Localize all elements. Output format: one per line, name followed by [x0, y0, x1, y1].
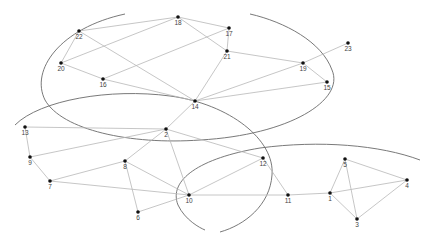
edge-6-10 [138, 195, 189, 212]
node-label: 15 [323, 84, 331, 91]
edge-2-12 [166, 129, 263, 158]
edge-2-10 [166, 129, 189, 195]
edge-5-4 [345, 159, 407, 180]
node-label: 5 [343, 161, 347, 168]
node-23: 23 [344, 41, 352, 52]
region-middle-community [15, 94, 272, 232]
edge-7-10 [50, 181, 189, 195]
edge-13-2 [25, 127, 166, 129]
region-lower-community [176, 144, 420, 230]
node-7: 7 [48, 179, 52, 190]
node-15: 15 [323, 80, 331, 91]
node-9: 9 [28, 155, 32, 166]
region-upper-community [41, 14, 334, 141]
node-label: 3 [355, 221, 359, 228]
edge-4-3 [357, 180, 407, 219]
node-label: 19 [299, 65, 307, 72]
edge-21-19 [227, 51, 303, 63]
node-16: 16 [99, 77, 107, 88]
node-20: 20 [57, 61, 65, 72]
edge-11-1 [288, 193, 330, 195]
node-label: 18 [174, 19, 182, 26]
node-18: 18 [174, 15, 182, 26]
node-21: 21 [223, 49, 231, 60]
node-label: 23 [344, 45, 352, 52]
node-8: 8 [123, 159, 127, 170]
node-label: 12 [259, 160, 267, 167]
edge-14-19 [195, 63, 303, 101]
edge-19-23 [303, 43, 348, 63]
node-label: 1 [328, 195, 332, 202]
node-4: 4 [405, 178, 409, 189]
node-label: 16 [99, 81, 107, 88]
node-label: 8 [123, 163, 127, 170]
node-label: 2 [164, 131, 168, 138]
node-12: 12 [259, 156, 267, 167]
node-label: 4 [405, 182, 409, 189]
node-label: 7 [48, 183, 52, 190]
edge-7-8 [50, 161, 125, 181]
edge-12-11 [263, 158, 288, 195]
node-label: 9 [28, 159, 32, 166]
node-label: 13 [21, 129, 29, 136]
edge-16-14 [103, 79, 195, 101]
edge-9-2 [30, 129, 166, 157]
node-5: 5 [343, 157, 347, 168]
edge-14-15 [195, 82, 327, 101]
node-label: 14 [191, 103, 199, 110]
node-label: 21 [223, 53, 231, 60]
node-label: 20 [57, 65, 65, 72]
node-label: 17 [225, 30, 233, 37]
network-graph: 1234567891011121314151617181920212223 [0, 0, 437, 246]
node-label: 11 [285, 197, 292, 204]
node-label: 10 [185, 197, 193, 204]
edge-21-14 [195, 51, 227, 101]
edge-16-17 [103, 28, 229, 79]
graph-nodes: 1234567891011121314151617181920212223 [21, 15, 409, 228]
edge-10-12 [189, 158, 263, 195]
node-2: 2 [164, 127, 168, 138]
community-regions [15, 14, 420, 232]
edge-8-2 [125, 129, 166, 161]
edge-22-14 [79, 31, 195, 101]
edge-1-4 [330, 180, 407, 193]
node-6: 6 [136, 210, 140, 221]
node-label: 22 [75, 33, 83, 40]
edge-8-6 [125, 161, 138, 212]
node-3: 3 [355, 217, 359, 228]
node-1: 1 [328, 191, 332, 202]
edge-9-7 [30, 157, 50, 181]
node-label: 6 [136, 214, 140, 221]
edge-20-16 [61, 63, 103, 79]
